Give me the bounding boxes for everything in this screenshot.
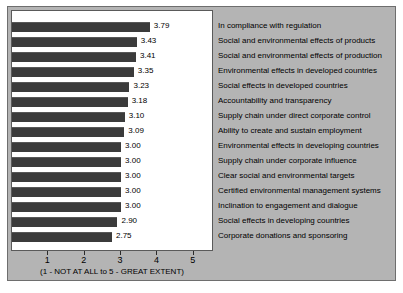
bar-value-label: 2.90 <box>121 215 137 227</box>
bar-value-label: 3.10 <box>129 110 145 122</box>
category-label: Environmental effects in developing coun… <box>218 138 379 153</box>
bar-row: 3.79 <box>12 19 212 34</box>
bar <box>12 172 121 182</box>
bar-row: 2.75 <box>12 229 212 244</box>
category-label: Ability to create and sustain employment <box>218 123 362 138</box>
bar-value-label: 2.75 <box>116 230 132 242</box>
bar-value-label: 3.43 <box>141 35 157 47</box>
bar-row: 2.90 <box>12 214 212 229</box>
bar-value-label: 3.00 <box>125 170 141 182</box>
bar <box>12 232 112 242</box>
x-axis-tick-label: 3 <box>118 255 123 266</box>
bar-value-label: 3.41 <box>140 50 156 62</box>
bar-row: 3.00 <box>12 169 212 184</box>
bar-row: 3.10 <box>12 109 212 124</box>
bar-value-label: 3.79 <box>154 20 170 32</box>
category-label: Supply chain under direct corporate cont… <box>218 108 371 123</box>
bar-row: 3.41 <box>12 49 212 64</box>
bar-value-label: 3.00 <box>125 140 141 152</box>
category-label: Social and environmental effects of prod… <box>218 48 382 63</box>
bar <box>12 112 125 122</box>
category-label: Supply chain under corporate influence <box>218 153 357 168</box>
bar-row: 3.00 <box>12 199 212 214</box>
bar <box>12 217 117 227</box>
x-axis-tick-label: 5 <box>190 255 195 266</box>
x-axis: (1 - NOT AT ALL to 5 - GREAT EXTENT) 123… <box>11 251 213 281</box>
bar <box>12 97 128 107</box>
bar-row: 3.35 <box>12 64 212 79</box>
category-label: Corporate donations and sponsoring <box>218 228 347 243</box>
bar-value-label: 3.00 <box>125 185 141 197</box>
bar-value-label: 3.00 <box>125 200 141 212</box>
bar-value-label: 3.23 <box>133 80 149 92</box>
bar-row: 3.43 <box>12 34 212 49</box>
x-axis-tick-label: 4 <box>154 255 159 266</box>
chart-figure: 3.793.433.413.353.233.183.103.093.003.00… <box>7 6 396 281</box>
bar-row: 3.00 <box>12 184 212 199</box>
x-axis-tick-label: 1 <box>45 255 50 266</box>
category-label: Certified environmental management syste… <box>218 183 381 198</box>
bar <box>12 67 134 77</box>
bar-row: 3.09 <box>12 124 212 139</box>
bar-row: 3.00 <box>12 139 212 154</box>
bar <box>12 142 121 152</box>
category-label: Inclination to engagement and dialogue <box>218 198 358 213</box>
bar <box>12 22 150 32</box>
category-label: Accountability and transparency <box>218 93 331 108</box>
bar <box>12 82 129 92</box>
bars-layer: 3.793.433.413.353.233.183.103.093.003.00… <box>12 11 212 250</box>
bar-value-label: 3.00 <box>125 155 141 167</box>
category-label: Clear social and environmental targets <box>218 168 355 183</box>
bar-value-label: 3.09 <box>128 125 144 137</box>
category-label: Social effects in developed countries <box>218 78 348 93</box>
bar <box>12 202 121 212</box>
x-axis-tick-label: 2 <box>81 255 86 266</box>
bar <box>12 127 124 137</box>
bar <box>12 37 137 47</box>
bar-value-label: 3.35 <box>138 65 154 77</box>
plot-area: 3.793.433.413.353.233.183.103.093.003.00… <box>11 10 213 251</box>
category-label: Social and environmental effects of prod… <box>218 33 375 48</box>
category-label: In compliance with regulation <box>218 18 321 33</box>
bar-row: 3.00 <box>12 154 212 169</box>
category-label: Social effects in developing countries <box>218 213 350 228</box>
bar-row: 3.23 <box>12 79 212 94</box>
bar-row: 3.18 <box>12 94 212 109</box>
x-axis-caption: (1 - NOT AT ALL to 5 - GREAT EXTENT) <box>11 266 213 277</box>
bar <box>12 52 136 62</box>
category-legend-panel: In compliance with regulationSocial and … <box>213 10 393 251</box>
bar-value-label: 3.18 <box>132 95 148 107</box>
bar <box>12 157 121 167</box>
bar <box>12 187 121 197</box>
category-label: Environmental effects in developed count… <box>218 63 377 78</box>
